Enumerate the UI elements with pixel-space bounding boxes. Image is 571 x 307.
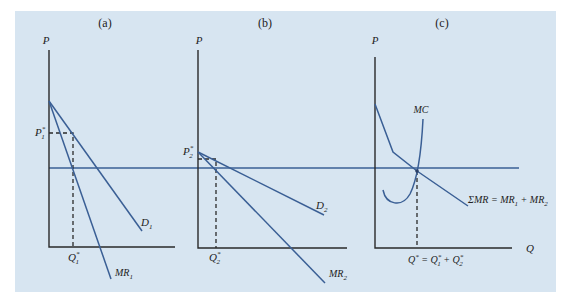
- panel-background: [15, 11, 556, 292]
- panel-b-y-label: P: [195, 34, 203, 46]
- panel-c-y-label: P: [371, 34, 379, 46]
- figure-third-degree-price-discrimination: (a) P P*1 Q*1 D1 MR1 (b) P P*2 Q*2: [0, 0, 571, 307]
- equilibrium-point: [415, 169, 419, 173]
- panel-c-title: (c): [435, 16, 448, 30]
- panel-b-title: (b): [258, 16, 272, 30]
- panel-a-y-label: P: [42, 34, 50, 46]
- panel-c-x-label: Q: [526, 242, 534, 254]
- panel-a-title: (a): [98, 16, 111, 30]
- mc-label: MC: [413, 104, 429, 115]
- chart-svg: (a) P P*1 Q*1 D1 MR1 (b) P P*2 Q*2: [0, 0, 571, 307]
